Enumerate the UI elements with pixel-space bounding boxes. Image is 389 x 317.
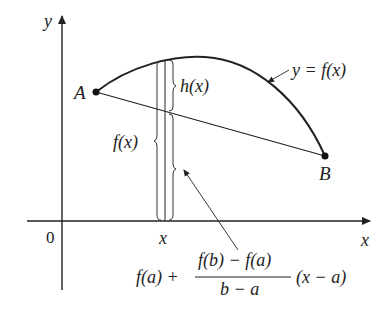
- fx-label: f(x): [113, 132, 138, 153]
- point-b: [322, 153, 329, 160]
- x-tick-label: x: [158, 228, 167, 248]
- origin-label: 0: [46, 228, 55, 247]
- hx-label: h(x): [180, 76, 209, 97]
- point-b-label: B: [319, 163, 331, 184]
- y-axis-label: y: [42, 11, 52, 31]
- point-a-label: A: [72, 82, 86, 103]
- formula-arrow: [184, 170, 238, 250]
- point-a: [93, 89, 100, 96]
- formula-numerator: f(b) − f(a): [198, 250, 271, 271]
- curve-label-arrow: [268, 70, 289, 82]
- formula-prefix: f(a) +: [136, 267, 179, 288]
- formula-denominator: b − a: [220, 279, 259, 299]
- mean-value-diagram: y x 0 x A B y = f(x) h(x) f(x) f(a) + f(…: [0, 0, 389, 317]
- formula-suffix: (x − a): [296, 267, 346, 288]
- brace-secant: [169, 114, 176, 220]
- brace-hx: [169, 60, 176, 111]
- x-axis-label: x: [360, 230, 369, 250]
- brace-fx: [154, 61, 161, 220]
- curve-label: y = f(x): [290, 60, 346, 81]
